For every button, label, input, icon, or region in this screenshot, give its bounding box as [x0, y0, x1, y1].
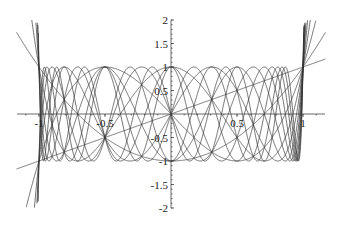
y-tick-label: 0.5: [154, 85, 168, 97]
y-tick-label: -0.5: [151, 132, 169, 144]
y-tick-label: 1.5: [154, 38, 168, 50]
chart: -1-0.50.51 21.510.5-0.5-1-1.5-2: [0, 0, 338, 231]
x-tick-label: -0.5: [96, 117, 114, 129]
y-tick-label: -1.5: [151, 179, 169, 191]
x-tick-label: 1: [300, 117, 306, 129]
x-tick-label: -1: [34, 117, 43, 129]
y-tick-label: -1: [159, 155, 168, 167]
y-tick-label: 1: [163, 61, 169, 73]
y-tick-label: -2: [159, 202, 168, 214]
x-tick-label: 0.5: [230, 117, 244, 129]
y-tick-label: 2: [163, 14, 169, 26]
